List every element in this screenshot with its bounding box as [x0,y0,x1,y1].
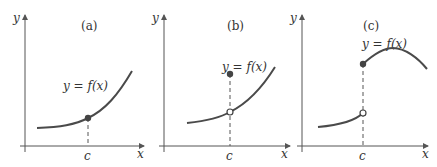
curve-right-branch [363,48,427,69]
tick-label-c: c [359,149,366,163]
panel-c: y (c) y = f(x) c x [289,11,429,163]
y-axis-label: y [12,11,20,25]
x-axis-label-a: x [137,147,144,161]
filled-point [227,71,233,77]
function-label: y = f(x) [62,79,108,93]
curve-left-branch [318,113,363,127]
x-axis-label: x [422,147,429,161]
open-point [227,109,233,115]
panel-title: (a) [81,19,98,33]
y-axis-label: y [289,11,297,25]
x-axis-label: x [281,147,288,161]
filled-point [360,61,366,67]
tick-label-c: c [226,149,233,163]
y-axis-label: y [151,11,159,25]
panel-a: y (a) y = f(x) c [12,11,144,163]
continuity-figure: y (a) y = f(x) c y (b) y = f(x) c x x y … [0,0,437,167]
open-point [360,110,366,116]
filled-point [85,115,91,121]
panel-b: y (b) y = f(x) c x x [137,11,290,163]
tick-label-c: c [84,149,91,163]
panel-title: (c) [363,19,379,33]
panel-title: (b) [227,19,244,33]
